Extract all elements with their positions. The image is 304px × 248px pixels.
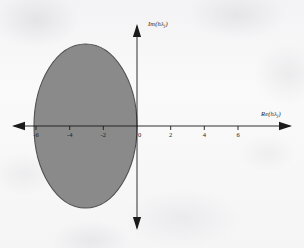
x-tick-label-4: 4 <box>197 131 211 138</box>
x-tick-label-0: 0 <box>138 131 148 138</box>
y-axis-label-suffix: ) <box>166 20 168 27</box>
x-tick-label--4: -4 <box>63 131 77 138</box>
y-axis-label: Im(hλj) <box>148 20 168 28</box>
figure-container: -6 -4 -2 0 2 4 6 Re(hλj) Im(hλj) <box>0 0 304 248</box>
x-axis-label-suffix: ) <box>279 110 281 117</box>
x-axis-label: Re(hλj) <box>261 110 281 118</box>
imaginary-axis-bottom-arrowhead <box>133 217 141 230</box>
y-axis-label-prefix: Im(h <box>148 20 161 27</box>
x-tick-label--6: -6 <box>29 131 43 138</box>
complex-plane-plot <box>0 0 304 248</box>
imaginary-axis-top-arrowhead <box>133 24 141 37</box>
x-axis-label-prefix: Re(h <box>261 110 274 117</box>
real-axis-left-arrowhead <box>12 122 25 130</box>
x-tick-label-6: 6 <box>231 131 245 138</box>
x-tick-label-2: 2 <box>164 131 178 138</box>
x-tick-label--2: -2 <box>96 131 110 138</box>
real-axis-right-arrowhead <box>279 122 292 130</box>
